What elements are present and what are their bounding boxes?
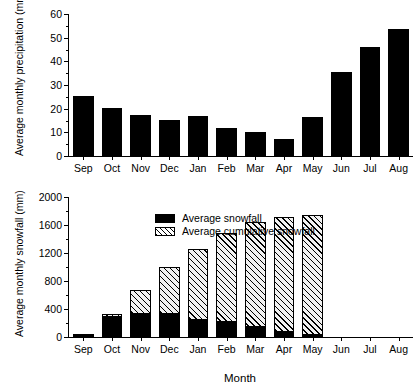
y-tick-label: 0 [56, 151, 62, 162]
y-tick-label: 20 [50, 103, 62, 114]
y-tick-minor [66, 267, 69, 268]
x-tick-label-jan: Jan [190, 163, 207, 174]
x-tick [83, 337, 84, 341]
x-tick [83, 156, 84, 160]
y-tick-label: 400 [44, 304, 62, 315]
x-tick-label-jul: Jul [363, 344, 376, 355]
x-tick-label-mar: Mar [246, 163, 264, 174]
x-tick [399, 156, 400, 160]
y-tick-label: 60 [50, 9, 62, 20]
x-tick-label-jan: Jan [190, 344, 207, 355]
bar-slot [384, 14, 413, 156]
y-tick [64, 253, 69, 254]
y-tick-label: 800 [44, 276, 62, 287]
y-tick-minor [66, 211, 69, 212]
cumulative-snowfall-segment-mar [245, 222, 266, 337]
x-tick [313, 156, 314, 160]
x-tick [227, 156, 228, 160]
hatched-swatch [155, 227, 175, 236]
x-tick-label-jun: Jun [333, 344, 350, 355]
bar-mar [245, 132, 266, 156]
bar-slot [212, 14, 241, 156]
y-tick-label: 0 [56, 332, 62, 343]
bar-sep [73, 96, 94, 156]
bar-jun [331, 72, 352, 156]
x-tick-label-apr: Apr [276, 344, 292, 355]
x-tick-label-may: May [303, 344, 323, 355]
y-tick [64, 156, 69, 157]
x-tick-label-may: May [303, 163, 323, 174]
stacked-bar-feb [216, 233, 237, 337]
x-tick-label-mar: Mar [246, 344, 264, 355]
snowfall-segment-oct [102, 316, 123, 337]
y-tick-label: 40 [50, 56, 62, 67]
bar-aug [388, 29, 409, 156]
y-tick [64, 225, 69, 226]
bar-jul [360, 47, 381, 156]
y-tick [64, 281, 69, 282]
x-tick [112, 156, 113, 160]
y-tick-label: 2000 [39, 192, 62, 203]
precipitation-plot-area: 0102030405060SepOctNovDecJanFebMarAprMay… [68, 14, 413, 157]
bar-dec [159, 120, 180, 156]
snowfall-segment-nov [130, 313, 151, 338]
x-tick-label-sep: Sep [74, 344, 93, 355]
bar-slot [241, 14, 270, 156]
y-tick-minor [66, 239, 69, 240]
stacked-bar-nov [130, 290, 151, 337]
snowfall-panel: Average monthly snowfall (mm) Average sn… [0, 185, 420, 391]
y-tick-minor [66, 50, 69, 51]
y-tick-minor [66, 97, 69, 98]
bar-slot [356, 197, 385, 337]
y-tick [64, 197, 69, 198]
bar-may [302, 117, 323, 156]
y-axis-title-precipitation: Average monthly precipitation (mm) [14, 0, 25, 156]
bar-slot [69, 14, 98, 156]
bar-feb [216, 128, 237, 156]
snowfall-segment-dec [159, 313, 180, 338]
y-tick [64, 14, 69, 15]
x-axis-title-month: Month [68, 373, 412, 385]
legend-item-average-cumulative-snowfall: Average cumulative snowfall [155, 226, 315, 237]
x-tick-label-nov: Nov [131, 344, 150, 355]
y-tick [64, 337, 69, 338]
x-tick [169, 337, 170, 341]
x-tick [255, 337, 256, 341]
y-tick [64, 38, 69, 39]
bar-slot [327, 14, 356, 156]
stacked-bar-oct [102, 314, 123, 337]
x-tick [284, 337, 285, 341]
x-tick-label-oct: Oct [104, 344, 120, 355]
x-tick-label-feb: Feb [218, 344, 236, 355]
x-tick [399, 337, 400, 341]
x-tick [341, 156, 342, 160]
y-tick-label: 50 [50, 32, 62, 43]
y-tick-minor [66, 26, 69, 27]
bar-slot [126, 14, 155, 156]
y-tick-label: 1600 [39, 220, 62, 231]
x-tick [370, 156, 371, 160]
bar-slot [98, 14, 127, 156]
bar-jan [188, 116, 209, 156]
x-tick-label-nov: Nov [131, 163, 150, 174]
bar-nov [130, 115, 151, 156]
snowfall-segment-feb [216, 321, 237, 337]
figure: Average monthly precipitation (mm) 01020… [0, 0, 420, 391]
x-tick-label-apr: Apr [276, 163, 292, 174]
bar-oct [102, 108, 123, 156]
y-tick-minor [66, 295, 69, 296]
snowfall-segment-mar [245, 326, 266, 337]
x-tick [284, 156, 285, 160]
y-tick-label: 1200 [39, 248, 62, 259]
x-tick-label-jul: Jul [363, 163, 376, 174]
bar-slot [69, 197, 98, 337]
x-tick-label-jun: Jun [333, 163, 350, 174]
x-tick-label-sep: Sep [74, 163, 93, 174]
bar-slot [298, 14, 327, 156]
legend-item-average-snowfall: Average snowfall [155, 213, 315, 224]
x-tick [141, 156, 142, 160]
legend-label-average-snowfall: Average snowfall [182, 213, 262, 224]
x-tick-label-dec: Dec [160, 344, 179, 355]
legend-label-average-cumulative-snowfall: Average cumulative snowfall [182, 226, 315, 237]
y-tick [64, 109, 69, 110]
